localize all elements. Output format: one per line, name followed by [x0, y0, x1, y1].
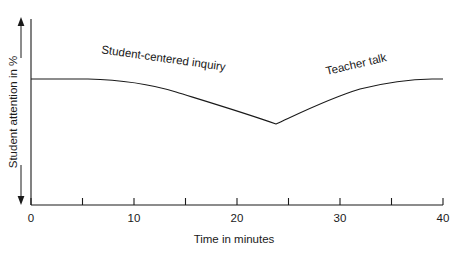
- x-tick-label-0: 0: [28, 212, 34, 224]
- attention-curve: [31, 79, 443, 124]
- x-tick-label-10: 10: [128, 212, 141, 224]
- series-label-teacher-talk: Teacher talk: [325, 51, 388, 77]
- x-axis-ticks: [31, 198, 443, 205]
- x-axis-title: Time in minutes: [194, 233, 275, 245]
- series-label-student-centered-inquiry: Student-centered inquiry: [101, 43, 227, 72]
- x-tick-label-40: 40: [437, 212, 450, 224]
- x-tick-label-30: 30: [334, 212, 347, 224]
- y-axis-down-arrow: [18, 165, 25, 205]
- chart-canvas: 0 10 20 30 40 Time in minutes Student at…: [0, 0, 463, 254]
- y-axis-up-arrow: [18, 17, 25, 58]
- y-axis-title: Student attention in %: [7, 56, 19, 169]
- attention-curve-chart: 0 10 20 30 40 Time in minutes Student at…: [0, 0, 463, 254]
- x-tick-label-20: 20: [231, 212, 244, 224]
